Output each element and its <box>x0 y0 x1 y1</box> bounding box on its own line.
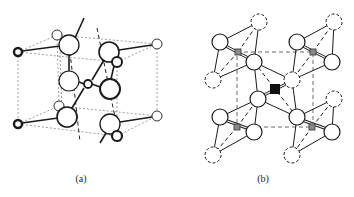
black-central-atom <box>270 84 280 94</box>
panel-a-caption: (a) <box>66 173 96 185</box>
crystal-structure-figure: (a) (b) <box>0 0 354 197</box>
panel-b-caption: (b) <box>248 173 278 185</box>
panel-b-diagram <box>0 0 354 197</box>
